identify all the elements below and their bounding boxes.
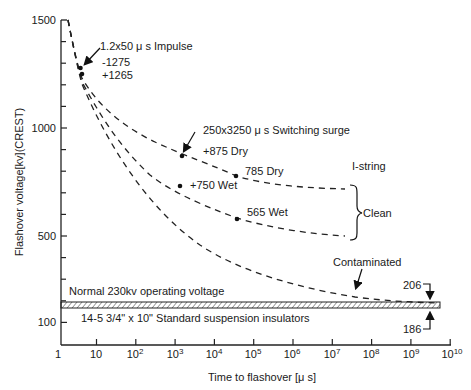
x-axis: 1 10 102 103 104 105 106 107 108 109 101… xyxy=(55,339,463,383)
value-186: 186 xyxy=(403,323,421,335)
wet-label: 565 Wet xyxy=(247,206,288,218)
y-axis: 1500 1000 500 100 Flashover voltage[kv](… xyxy=(13,14,67,345)
flashover-chart: 1500 1000 500 100 Flashover voltage[kv](… xyxy=(0,0,471,390)
switching-arrow xyxy=(184,132,195,151)
contaminated-label: Contaminated xyxy=(333,256,402,268)
wet-pos-label: +750 Wet xyxy=(190,179,237,191)
point-565-wet xyxy=(235,217,240,222)
x-axis-label: Time to flashover [μ s] xyxy=(208,371,316,383)
clean-label: Clean xyxy=(363,207,392,219)
y-tick-100: 100 xyxy=(38,316,56,328)
y-tick-500: 500 xyxy=(38,230,56,242)
x-tick-1e6: 106 xyxy=(284,347,301,360)
x-tick-1e2: 102 xyxy=(127,347,144,360)
impulse-arrow xyxy=(85,48,100,64)
x-tick-1e10: 1010 xyxy=(441,347,463,360)
arrow-206 xyxy=(423,284,430,298)
operating-band xyxy=(61,302,440,308)
istring-label: I-string xyxy=(352,160,386,172)
dry-label: 785 Dry xyxy=(245,165,284,177)
x-tick-1e7: 107 xyxy=(324,347,341,360)
operating-label: Normal 230kv operating voltage xyxy=(69,285,224,297)
insulators-label: 14-5 3/4" x 10" Standard suspension insu… xyxy=(81,312,310,324)
point-785-dry xyxy=(234,174,239,179)
point-750-wet xyxy=(178,184,183,189)
data-points xyxy=(78,66,239,222)
switching-label: 250x3250 μ s Switching surge xyxy=(203,124,350,136)
point-neg-1275 xyxy=(78,66,83,71)
y-tick-1000: 1000 xyxy=(32,122,56,134)
x-tick-1e4: 104 xyxy=(206,347,223,360)
arrow-186 xyxy=(423,313,430,329)
point-875-dry xyxy=(180,154,185,159)
y-axis-label: Flashover voltage[kv](CREST) xyxy=(13,108,25,257)
x-tick-1e5: 105 xyxy=(245,347,262,360)
contaminated-arrow xyxy=(356,269,362,288)
impulse-neg-label: -1275 xyxy=(102,56,130,68)
point-pos-1265 xyxy=(80,72,85,77)
impulse-label: 1.2x50 μ s Impulse xyxy=(100,40,193,52)
x-tick-10: 10 xyxy=(90,348,102,360)
x-tick-1: 1 xyxy=(55,348,61,360)
clean-brace xyxy=(350,185,362,240)
x-tick-1e9: 109 xyxy=(403,347,420,360)
x-tick-1e3: 103 xyxy=(167,347,184,360)
x-tick-1e8: 108 xyxy=(363,347,380,360)
impulse-pos-label: +1265 xyxy=(102,69,133,81)
y-tick-1500: 1500 xyxy=(32,14,56,26)
value-206: 206 xyxy=(403,279,421,291)
dry-pos-label: +875 Dry xyxy=(203,145,248,157)
